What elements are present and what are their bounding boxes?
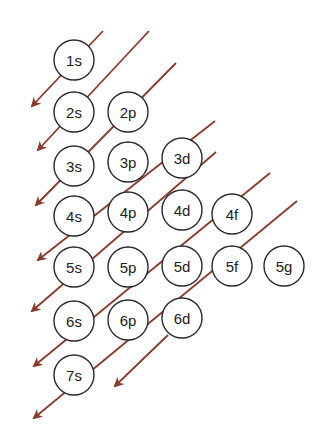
orbital-3p: 3p <box>108 142 148 182</box>
orbital-label: 6d <box>174 310 191 327</box>
orbital-3d: 3d <box>162 138 202 178</box>
orbital-label: 3p <box>120 154 137 171</box>
orbital-label: 5s <box>66 259 82 276</box>
orbital-label: 5f <box>226 258 239 275</box>
orbital-5p: 5p <box>108 247 148 287</box>
orbital-5s: 5s <box>54 247 94 287</box>
orbital-label: 3s <box>66 158 82 175</box>
orbital-6s: 6s <box>54 301 94 341</box>
orbital-4p: 4p <box>108 192 148 232</box>
orbital-label: 5p <box>120 259 137 276</box>
orbital-label: 6s <box>66 313 82 330</box>
orbital-6p: 6p <box>108 300 148 340</box>
orbital-label: 4f <box>226 206 239 223</box>
diagonal-arrow-icon <box>36 63 176 205</box>
orbital-2s: 2s <box>54 92 94 132</box>
orbital-4d: 4d <box>162 190 202 230</box>
orbital-4s: 4s <box>54 196 94 236</box>
orbital-label: 6p <box>120 312 137 329</box>
orbital-label: 2p <box>120 104 137 121</box>
orbital-label: 4s <box>66 208 82 225</box>
orbital-label: 2s <box>66 104 82 121</box>
orbital-4f: 4f <box>212 194 252 234</box>
orbital-label: 7s <box>66 367 82 384</box>
orbital-3s: 3s <box>54 146 94 186</box>
orbital-label: 1s <box>66 52 82 69</box>
orbital-6d: 6d <box>162 298 202 338</box>
orbital-5f: 5f <box>212 246 252 286</box>
orbital-label: 4d <box>174 202 191 219</box>
diagonal-arrow-icon <box>115 335 168 386</box>
orbital-filling-diagram: 1s2s2p3s3p3d4s4p4d4f5s5p5d5f5g6s6p6d7s <box>0 0 327 444</box>
orbital-5g: 5g <box>264 246 304 286</box>
orbital-label: 5d <box>174 258 191 275</box>
orbital-2p: 2p <box>108 92 148 132</box>
orbital-7s: 7s <box>54 355 94 395</box>
orbital-1s: 1s <box>54 40 94 80</box>
orbital-label: 3d <box>174 150 191 167</box>
orbital-label: 4p <box>120 204 137 221</box>
orbital-5d: 5d <box>162 246 202 286</box>
orbital-label: 5g <box>276 258 293 275</box>
